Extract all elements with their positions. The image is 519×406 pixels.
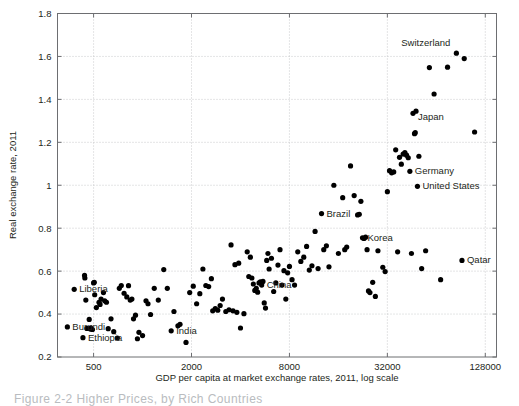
point-annotation-label: Liberia [79,283,108,294]
data-point [262,300,267,305]
data-point [364,247,369,252]
data-point [283,296,288,301]
data-point [228,242,233,247]
data-point [264,258,269,263]
data-point [312,229,317,234]
x-tick-label: 128000 [469,361,501,372]
data-point [419,266,424,271]
data-point [395,249,400,254]
data-point [152,286,157,291]
data-point [277,247,282,252]
y-tick-label: 1.8 [38,8,51,19]
x-tick-label: 500 [86,361,102,372]
data-point [336,251,341,256]
point-annotation-label: Burundi [72,321,105,332]
data-point [249,275,254,280]
data-point [65,324,70,329]
point-annotation-label: China [267,279,293,290]
point-annotation-label: United States [422,180,479,191]
data-point [326,264,331,269]
x-tick-label: 8000 [279,361,300,372]
data-point [348,163,353,168]
data-point [393,147,398,152]
data-point [267,266,272,271]
data-point [106,326,111,331]
point-annotation-label: Ethiopia [88,332,123,343]
point-annotations-group: SwitzerlandJapanGermanyUnited StatesBraz… [72,37,490,342]
figure-caption: Figure 2-2 Higher Prices, by Rich Countr… [14,392,514,406]
data-point [445,65,450,70]
x-tick-label: 32000 [374,361,400,372]
data-point [234,310,239,315]
data-point [357,212,362,217]
data-point [135,336,140,341]
y-tick-label: 1.4 [38,94,51,105]
y-tick-label: 0.6 [38,266,51,277]
data-point [406,155,411,160]
data-point [72,287,77,292]
data-point [358,199,363,204]
data-point [413,130,418,135]
data-point [83,298,88,303]
point-annotation-label: Qatar [467,254,491,265]
data-point [145,301,150,306]
data-point [97,302,102,307]
data-point [236,261,241,266]
data-point [292,282,297,287]
data-point [183,340,188,345]
data-point [119,283,124,288]
data-point [431,91,436,96]
data-point [385,189,390,194]
data-point [331,183,336,188]
data-point [80,335,85,340]
figure-container: SwitzerlandJapanGermanyUnited StatesBraz… [0,0,519,406]
y-tick-label: 0.8 [38,223,51,234]
y-tick-label: 1.2 [38,137,51,148]
data-point [352,193,357,198]
point-annotation-label: Korea [367,232,393,243]
data-point [263,305,268,310]
data-points-group [65,51,477,345]
data-point [129,296,134,301]
data-point [367,290,372,295]
data-point [238,325,243,330]
x-axis-title: GDP per capita at market exchange rates,… [155,372,398,383]
data-point [287,264,292,269]
data-point [454,51,459,56]
data-point [148,312,153,317]
data-point [304,244,309,249]
data-point [215,308,220,313]
data-point [472,129,477,134]
data-point [370,280,375,285]
data-point [197,291,202,296]
data-point [373,294,378,299]
point-annotation-label: Germany [415,165,454,176]
point-annotation-label: Switzerland [401,37,450,48]
y-tick-label: 0.4 [38,308,51,319]
data-point [415,184,420,189]
data-point [133,313,138,318]
data-point [209,276,214,281]
data-point [324,243,329,248]
x-tick-label: 2000 [181,361,202,372]
data-point [298,259,303,264]
y-tick-label: 1.6 [38,51,51,62]
data-point [248,255,253,260]
data-point [241,311,246,316]
data-point [459,258,464,263]
point-annotation-label: Brazil [327,208,351,219]
y-tick-label: 0.2 [38,351,51,362]
data-point [423,248,428,253]
data-point [200,266,205,271]
data-point [220,296,225,301]
scatter-plot: SwitzerlandJapanGermanyUnited StatesBraz… [0,0,519,406]
data-point [82,275,87,280]
data-point [275,263,280,268]
data-point [269,256,274,261]
data-point [108,316,113,321]
y-tick-label: 1 [46,180,51,191]
data-point [104,300,109,305]
data-point [245,249,250,254]
data-point [126,283,131,288]
data-point [301,255,306,260]
